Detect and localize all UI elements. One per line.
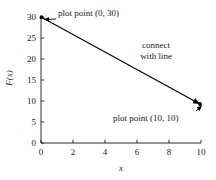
x-tick-label-4: 4 <box>103 148 108 157</box>
x-tick-label-2: 2 <box>71 148 76 157</box>
x-axis-ticks <box>41 140 201 143</box>
x-tick-label-6: 6 <box>135 148 140 157</box>
annotation-connect-line-2: with line <box>140 51 172 62</box>
y-tick-label-25: 25 <box>22 34 36 43</box>
annotation-leader-bottom <box>196 106 202 111</box>
data-line-series-0 <box>41 17 199 104</box>
y-tick-label-15: 15 <box>22 76 36 85</box>
annotation-leader-top <box>45 19 57 20</box>
y-tick-label-0: 0 <box>22 139 36 148</box>
x-tick-label-10: 10 <box>197 148 206 157</box>
chart-figure: 0 5 10 15 20 25 30 0 2 4 6 8 10 x F(x) p… <box>0 0 216 180</box>
annotation-connect-with-line: connect with line <box>140 40 172 63</box>
y-axis-ticks <box>41 17 44 143</box>
x-tick-label-8: 8 <box>167 148 172 157</box>
x-axis-title: x <box>119 164 123 173</box>
y-tick-label-30: 30 <box>22 13 36 22</box>
plot-canvas <box>0 0 216 180</box>
annotation-plot-point-start: plot point (0, 30) <box>58 8 119 19</box>
data-point-start <box>40 15 44 19</box>
y-tick-label-5: 5 <box>22 118 36 127</box>
y-axis-title: F(x) <box>5 70 14 86</box>
x-tick-label-0: 0 <box>39 148 44 157</box>
data-point-end <box>198 102 202 106</box>
annotation-plot-point-end: plot point (10, 10) <box>113 113 179 124</box>
annotation-connect-line-1: connect <box>140 40 172 51</box>
y-tick-label-10: 10 <box>22 97 36 106</box>
y-tick-label-20: 20 <box>22 55 36 64</box>
